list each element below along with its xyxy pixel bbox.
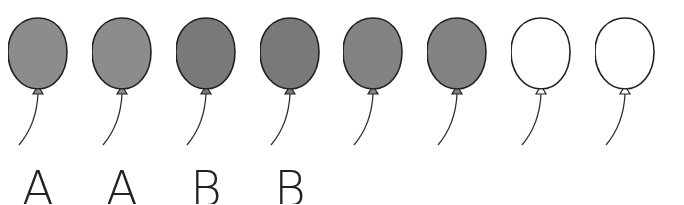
balloon-label: B <box>176 157 236 205</box>
balloon-icon <box>595 0 679 150</box>
balloon-icon <box>176 0 260 150</box>
balloon-label: B <box>260 157 320 205</box>
balloon <box>595 0 679 150</box>
balloon-label: A <box>8 157 68 205</box>
balloon <box>8 0 92 150</box>
balloon-icon <box>260 0 344 150</box>
balloon-icon <box>511 0 595 150</box>
balloon-icon <box>427 0 511 150</box>
balloon-label: A <box>92 157 152 205</box>
balloon <box>260 0 344 150</box>
balloon <box>511 0 595 150</box>
balloon-icon <box>343 0 427 150</box>
balloon-icon <box>92 0 176 150</box>
balloon-icon <box>8 0 92 150</box>
balloon <box>343 0 427 150</box>
balloon <box>427 0 511 150</box>
balloon <box>176 0 260 150</box>
balloon <box>92 0 176 150</box>
